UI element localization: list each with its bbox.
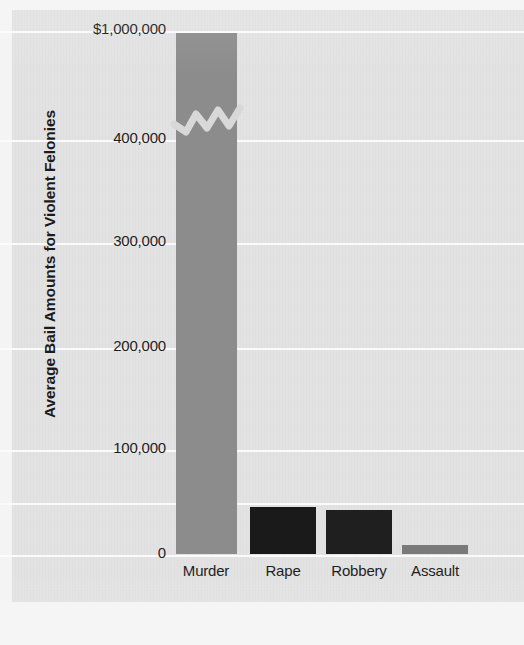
bar-robbery — [326, 510, 392, 554]
x-axis-tick-label: Assault — [375, 562, 495, 579]
gridline — [0, 503, 524, 505]
y-axis-tick-label: 300,000 — [0, 232, 166, 249]
y-axis-tick-label: 400,000 — [0, 129, 166, 146]
y-axis-title: Average Bail Amounts for Violent Felonie… — [41, 54, 59, 474]
bar-assault — [402, 545, 468, 554]
y-axis-tick-label: 200,000 — [0, 337, 166, 354]
y-axis-tick-label: $1,000,000 — [0, 20, 166, 37]
y-axis-tick-label: 0 — [0, 544, 166, 561]
bar-murder — [176, 33, 237, 554]
y-axis-tick-label: 100,000 — [0, 439, 166, 456]
bar-rape — [250, 507, 316, 554]
bar-chart: $1,000,000400,000300,000200,000100,0000 … — [0, 0, 524, 645]
